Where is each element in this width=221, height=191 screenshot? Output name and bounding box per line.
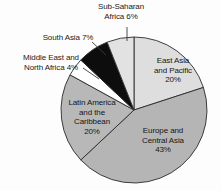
slice-label-line: Africa 6% bbox=[73, 12, 169, 22]
slice-label-line: Sub-Saharan bbox=[73, 2, 169, 12]
slice-label-south-asia: South Asia 7% bbox=[26, 33, 110, 43]
slice-label-line: 43% bbox=[127, 145, 199, 155]
slice-label-east-asia-and-pacific: East Asia and Pacific 20% bbox=[142, 56, 204, 85]
slice-label-line: 20% bbox=[142, 75, 204, 85]
slice-label-line: and Pacific bbox=[142, 66, 204, 76]
slice-label-sub-saharan-africa: Sub-Saharan Africa 6% bbox=[73, 2, 169, 21]
slice-label-line: North Africa 4% bbox=[2, 63, 100, 73]
pie-chart-figure: Sub-Saharan Africa 6% South Asia 7% Midd… bbox=[0, 0, 221, 191]
slice-label-line: Caribbean bbox=[58, 117, 126, 127]
slice-label-line: Latin America bbox=[58, 98, 126, 108]
slice-label-latin-america-and-the-caribbean: Latin America and the Caribbean 20% bbox=[58, 98, 126, 136]
slice-label-line: Europe and bbox=[127, 126, 199, 136]
slice-label-line: and the bbox=[58, 108, 126, 118]
slice-label-line: East Asia bbox=[142, 56, 204, 66]
pie-chart-svg bbox=[0, 0, 221, 191]
slice-label-line: Middle East and bbox=[2, 53, 100, 63]
slice-label-line: 20% bbox=[58, 127, 126, 137]
slice-label-line: South Asia 7% bbox=[26, 33, 110, 43]
slice-label-line: Central Asia bbox=[127, 136, 199, 146]
slice-label-middle-east-and-north-africa: Middle East and North Africa 4% bbox=[2, 53, 100, 72]
slice-label-europe-and-central-asia: Europe and Central Asia 43% bbox=[127, 126, 199, 155]
